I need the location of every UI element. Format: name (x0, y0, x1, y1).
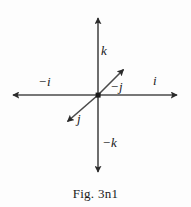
axis-label-i: i (153, 74, 157, 87)
axis-label-negative-j: −j (110, 80, 123, 93)
coordinate-axes-diagram (0, 0, 191, 207)
axis-label-negative-k: −k (102, 136, 117, 149)
axis-label-k: k (101, 44, 107, 57)
axis-label-negative-i: −i (38, 75, 51, 88)
figure-3n1: k −i i −j j −k Fig. 3n1 (0, 0, 191, 207)
origin-point (96, 93, 101, 98)
figure-caption: Fig. 3n1 (0, 186, 191, 202)
axis-label-j: j (77, 112, 81, 125)
